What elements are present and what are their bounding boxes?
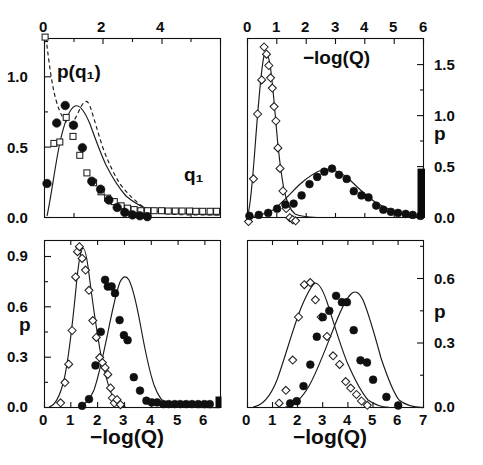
panel-top-left-inner-label: p(q₁) (57, 63, 101, 80)
tick-label-x-br-1: 1 (268, 412, 276, 427)
tick-label-y-br-03: 0.3 (434, 335, 455, 350)
panel-top-right-inner-label: −log(Q) (303, 49, 370, 66)
delta-function-bar (216, 397, 222, 409)
tick-label-x-br-6: 6 (393, 412, 401, 427)
tick-label-y-tr-00: 0.0 (434, 210, 455, 225)
panel-bottom-left (44, 240, 221, 408)
tick-label-y-tr-10: 1.0 (434, 108, 455, 123)
tick-label-x-tr-3: 3 (331, 19, 339, 34)
tick-label-y-tl-00: 0.0 (7, 210, 28, 225)
series-open-diamonds (57, 243, 125, 409)
panel-bottom-right-y-axis-label: p (434, 303, 446, 320)
tick-label-x-br-5: 5 (368, 412, 376, 427)
panel-bottom-left-y-axis-label: p (19, 316, 31, 333)
diamond-fit-curve (253, 283, 389, 407)
tick-label-y-bl-06: 0.6 (7, 299, 28, 314)
tick-label-x-tl-4: 4 (156, 19, 164, 34)
tick-label-y-br-00: 0.0 (434, 399, 455, 414)
tick-label-x-br-0: 0 (242, 412, 250, 427)
series-filled-circles (246, 165, 425, 220)
tick-label-y-bl-09: 0.9 (7, 248, 28, 263)
panel-bottom-right-plot (247, 240, 424, 408)
tick-label-x-tr-1: 1 (272, 19, 280, 34)
panel-top-left-x-axis-label: q₁ (184, 166, 203, 183)
tick-label-x-bl-1: 1 (66, 412, 74, 427)
figure-canvas: 0 2 4 0.0 0.5 1.0 p(q₁) q₁ (0, 0, 483, 465)
tick-label-y-tr-05: 0.5 (434, 159, 455, 174)
tick-label-y-tr-15: 1.5 (434, 57, 455, 72)
tick-label-x-bl-0: 0 (39, 412, 47, 427)
tick-label-x-tr-4: 4 (360, 19, 368, 34)
tick-label-y-bl-00: 0.0 (7, 399, 28, 414)
tick-label-x-tl-0: 0 (39, 19, 47, 34)
series-open-diamonds (275, 279, 371, 410)
series-open-diamonds (245, 43, 300, 226)
panel-bottom-left-plot (44, 240, 221, 408)
panel-bottom-right (247, 240, 424, 408)
series-filled-circles (286, 292, 402, 410)
tick-label-x-tr-2: 2 (301, 19, 309, 34)
tick-label-y-tl-10: 1.0 (7, 69, 28, 84)
panel-top-right-y-axis-label: p (434, 125, 446, 142)
panel-bottom-right-x-axis-label: −log(Q) (293, 428, 367, 445)
circle-fit-curve (285, 292, 423, 408)
tick-label-x-tr-5: 5 (389, 19, 397, 34)
tick-label-x-tr-0: 0 (243, 19, 251, 34)
panel-bottom-left-x-axis-label: −log(Q) (90, 428, 164, 445)
tick-label-x-tr-6: 6 (419, 19, 427, 34)
plot-frame (45, 241, 221, 408)
tick-label-y-tl-05: 0.5 (7, 140, 28, 155)
tick-label-x-tl-2: 2 (97, 19, 105, 34)
tick-label-y-bl-03: 0.3 (7, 349, 28, 364)
tick-label-y-br-06: 0.6 (434, 271, 455, 286)
delta-function-bar (418, 169, 426, 218)
tick-label-x-bl-6: 6 (199, 412, 207, 427)
tick-label-x-bl-5: 5 (173, 412, 181, 427)
tick-label-x-br-7: 7 (419, 412, 427, 427)
